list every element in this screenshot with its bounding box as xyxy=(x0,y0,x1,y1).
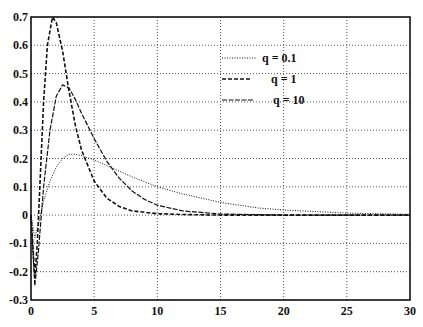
legend-label: q = 1 xyxy=(271,72,297,86)
legend: q = 0.1q = 1q = 10 xyxy=(222,51,305,107)
y-tick-label: 0.6 xyxy=(13,38,28,52)
y-tick-label: 0.5 xyxy=(13,67,28,81)
y-tick-label: 0.1 xyxy=(13,180,28,194)
y-tick-label: 0.2 xyxy=(13,152,28,166)
x-tick-label: 30 xyxy=(404,304,416,318)
legend-label: q = 0.1 xyxy=(262,51,297,65)
y-tick-label: -0.3 xyxy=(9,293,28,307)
series-line-0 xyxy=(31,154,410,237)
legend-label: q = 10 xyxy=(273,93,305,107)
y-axis-ticks: 0.70.60.50.40.30.20.10-0.1-0.2-0.3 xyxy=(9,10,28,307)
x-axis-ticks: 051015202530 xyxy=(28,304,416,318)
y-tick-label: 0.4 xyxy=(13,95,28,109)
x-tick-label: 15 xyxy=(215,304,227,318)
x-tick-label: 10 xyxy=(151,304,163,318)
y-tick-label: -0.2 xyxy=(9,265,28,279)
grid-lines xyxy=(31,17,410,300)
line-chart: 051015202530 0.70.60.50.40.30.20.10-0.1-… xyxy=(0,0,423,327)
x-tick-label: 25 xyxy=(341,304,353,318)
x-tick-label: 20 xyxy=(278,304,290,318)
x-tick-label: 5 xyxy=(91,304,97,318)
y-tick-label: 0 xyxy=(22,208,28,222)
y-tick-label: 0.3 xyxy=(13,123,28,137)
x-tick-label: 0 xyxy=(28,304,34,318)
y-tick-label: -0.1 xyxy=(9,236,28,250)
y-tick-label: 0.7 xyxy=(13,10,28,24)
